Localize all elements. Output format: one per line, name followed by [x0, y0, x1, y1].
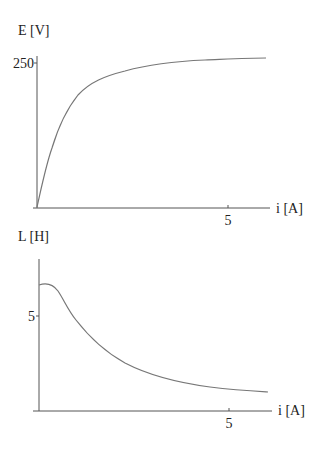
y-tick-label: 5 — [28, 309, 35, 324]
x-tick-label: 5 — [225, 213, 232, 228]
l-curve — [39, 284, 268, 392]
e-curve — [37, 58, 266, 207]
chart-e-vs-i: E [V] 250 5 i [A] — [13, 23, 303, 228]
x-axis-label: i [A] — [278, 403, 305, 418]
y-tick-label: 250 — [13, 56, 34, 71]
x-axis-label: i [A] — [276, 201, 303, 216]
y-axis-label: E [V] — [18, 23, 50, 38]
y-axis-label: L [H] — [18, 229, 49, 244]
chart-l-vs-i: L [H] 5 5 i [A] — [18, 229, 305, 431]
figure: E [V] 250 5 i [A] L [H] 5 5 i [A] — [0, 0, 317, 449]
x-tick-label: 5 — [226, 416, 233, 431]
